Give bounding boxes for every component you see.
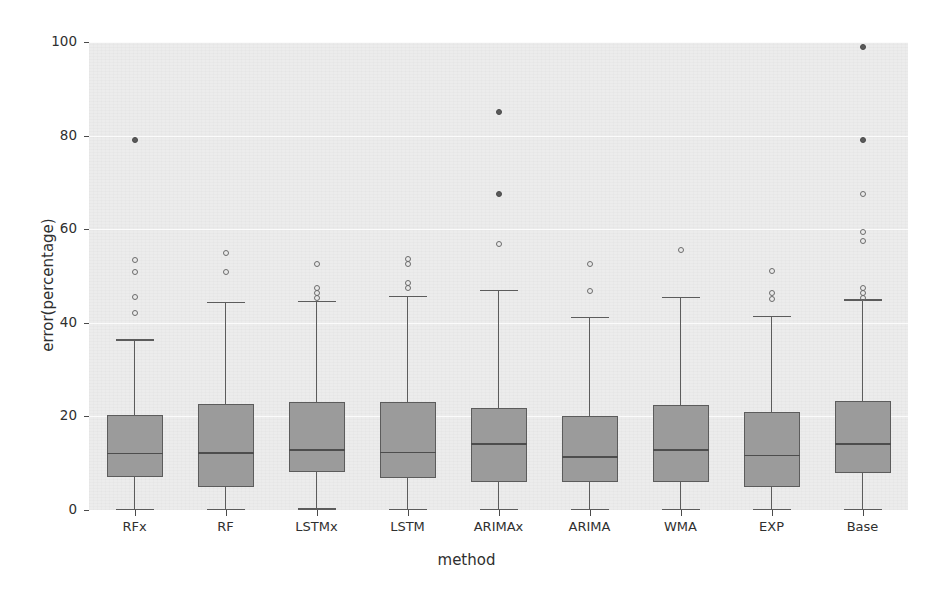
outlier-point-filled bbox=[132, 137, 138, 143]
whisker-upper bbox=[225, 302, 226, 404]
outlier-point bbox=[860, 229, 866, 235]
x-tick-mark bbox=[317, 510, 318, 516]
box bbox=[198, 404, 254, 487]
whisker-upper bbox=[407, 296, 408, 403]
outlier-point bbox=[496, 241, 502, 247]
y-tick-mark bbox=[84, 229, 89, 230]
y-tick-mark bbox=[84, 416, 89, 417]
boxplot-figure: 020406080100 RFxRFLSTMxLSTMARIMAxARIMAWM… bbox=[0, 0, 933, 593]
y-tick-mark bbox=[84, 510, 89, 511]
outlier-point bbox=[860, 290, 866, 296]
x-tick-label-rf: RF bbox=[217, 520, 234, 533]
box bbox=[744, 412, 800, 487]
whisker-upper bbox=[771, 316, 772, 412]
whisker-lower bbox=[862, 473, 863, 509]
gridline bbox=[89, 229, 908, 230]
outlier-point bbox=[860, 285, 866, 291]
whisker-lower bbox=[134, 477, 135, 508]
y-tick-mark bbox=[84, 323, 89, 324]
outlier-point-filled bbox=[860, 44, 866, 50]
x-tick-mark bbox=[226, 510, 227, 516]
whisker-cap-upper bbox=[480, 290, 518, 291]
outlier-point bbox=[314, 285, 320, 291]
outlier-point-filled bbox=[860, 137, 866, 143]
x-tick-label-base: Base bbox=[847, 520, 879, 533]
x-tick-label-arimax: ARIMAx bbox=[474, 520, 524, 533]
outlier-point bbox=[314, 290, 320, 296]
outlier-point bbox=[405, 256, 411, 262]
outlier-point bbox=[132, 269, 138, 275]
box bbox=[380, 402, 436, 478]
outlier-point bbox=[314, 261, 320, 267]
x-tick-mark bbox=[408, 510, 409, 516]
plot-area bbox=[89, 42, 908, 510]
outlier-point bbox=[769, 268, 775, 274]
x-tick-mark bbox=[772, 510, 773, 516]
box bbox=[107, 415, 163, 477]
whisker-lower bbox=[680, 482, 681, 509]
whisker-cap-upper bbox=[753, 316, 791, 317]
outlier-point bbox=[405, 285, 411, 291]
whisker-upper bbox=[589, 317, 590, 417]
gridline bbox=[89, 42, 908, 43]
x-tick-label-arima: ARIMA bbox=[569, 520, 611, 533]
outlier-point bbox=[587, 288, 593, 294]
median-line bbox=[835, 443, 891, 445]
whisker-lower bbox=[771, 487, 772, 509]
whisker-cap-upper bbox=[207, 302, 245, 303]
outlier-point bbox=[769, 296, 775, 302]
outlier-point bbox=[860, 191, 866, 197]
y-axis-label: error(percentage) bbox=[39, 175, 57, 395]
outlier-point bbox=[769, 290, 775, 296]
outlier-point-filled bbox=[496, 109, 502, 115]
box bbox=[835, 401, 891, 473]
median-line bbox=[653, 449, 709, 451]
whisker-upper bbox=[862, 299, 863, 401]
whisker-upper bbox=[498, 290, 499, 408]
gridline bbox=[89, 136, 908, 137]
y-tick-label: 0 bbox=[35, 503, 77, 517]
outlier-point bbox=[860, 238, 866, 244]
x-axis-label: method bbox=[0, 551, 933, 569]
whisker-upper bbox=[134, 339, 135, 415]
median-line bbox=[380, 452, 436, 454]
whisker-lower bbox=[589, 482, 590, 509]
x-tick-mark bbox=[590, 510, 591, 516]
x-tick-label-exp: EXP bbox=[759, 520, 784, 533]
median-line bbox=[562, 456, 618, 458]
outlier-point bbox=[860, 295, 866, 301]
outlier-point bbox=[587, 261, 593, 267]
x-tick-label-rfx: RFx bbox=[122, 520, 146, 533]
outlier-point bbox=[132, 257, 138, 263]
x-tick-mark bbox=[681, 510, 682, 516]
outlier-point bbox=[132, 294, 138, 300]
y-tick-mark bbox=[84, 136, 89, 137]
whisker-cap-upper bbox=[571, 317, 609, 318]
outlier-point-filled bbox=[496, 191, 502, 197]
box bbox=[471, 408, 527, 481]
whisker-upper bbox=[680, 297, 681, 405]
whisker-lower bbox=[498, 482, 499, 509]
outlier-point bbox=[223, 269, 229, 275]
y-tick-label: 80 bbox=[35, 129, 77, 143]
box bbox=[653, 405, 709, 482]
whisker-lower bbox=[407, 478, 408, 508]
outlier-point bbox=[132, 310, 138, 316]
outlier-point bbox=[314, 295, 320, 301]
x-tick-mark bbox=[863, 510, 864, 516]
x-tick-label-wma: WMA bbox=[664, 520, 697, 533]
outlier-point bbox=[405, 280, 411, 286]
whisker-lower bbox=[316, 472, 317, 509]
median-line bbox=[289, 449, 345, 451]
y-tick-mark bbox=[84, 42, 89, 43]
median-line bbox=[744, 455, 800, 457]
outlier-point bbox=[223, 250, 229, 256]
x-tick-mark bbox=[499, 510, 500, 516]
whisker-cap-upper bbox=[389, 296, 427, 297]
median-line bbox=[198, 452, 254, 454]
x-tick-mark bbox=[135, 510, 136, 516]
box bbox=[289, 402, 345, 471]
x-tick-label-lstm: LSTM bbox=[390, 520, 425, 533]
box bbox=[562, 416, 618, 482]
y-tick-label: 100 bbox=[35, 35, 77, 49]
